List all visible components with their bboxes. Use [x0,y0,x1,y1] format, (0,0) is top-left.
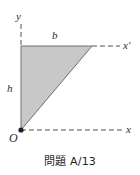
base-dimension-label: b [52,30,58,41]
x-prime-axis-label: x' [123,40,130,51]
origin-point-marker [18,127,23,132]
y-axis-label: y [16,11,21,22]
figure-container: y b h O x' x 問題 A/13 [0,0,140,175]
origin-label: O [9,132,18,144]
height-dimension-label: h [7,83,13,94]
shaded-triangle [21,46,92,130]
figure-caption: 問題 A/13 [0,152,140,168]
figure-drawing [0,0,140,175]
x-axis-label: x [126,124,131,135]
